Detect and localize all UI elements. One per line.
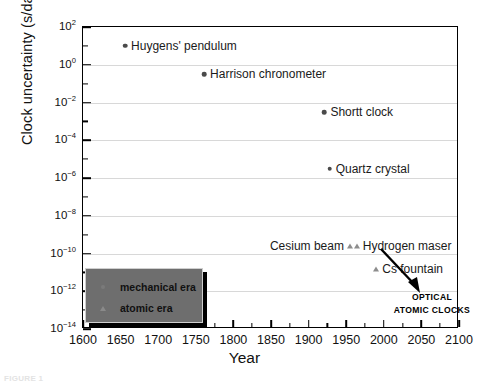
data-point-label: Huygens' pendulum — [131, 39, 237, 53]
y-major-tick — [83, 215, 91, 217]
x-tick-label: 1700 — [144, 333, 172, 347]
y-minor-tick — [83, 83, 88, 84]
x-tick-label: 1900 — [295, 333, 323, 347]
y-tick-label: 10−4 — [55, 135, 76, 147]
x-major-tick — [82, 320, 84, 327]
y-major-tick — [83, 253, 91, 255]
legend: mechanical era atomic era — [85, 268, 203, 323]
legend-circle-marker-icon — [86, 285, 120, 290]
x-tick-label: 1600 — [69, 333, 97, 347]
x-major-tick — [458, 320, 460, 327]
x-minor-tick — [214, 323, 215, 327]
gridline — [83, 216, 457, 217]
gridline — [83, 103, 457, 104]
x-minor-tick — [289, 323, 290, 327]
y-tick-label: 10−12 — [50, 286, 76, 298]
y-major-tick — [83, 102, 91, 104]
annotation-arrow-icon — [375, 245, 435, 297]
x-major-tick — [345, 320, 347, 327]
annotation-line-1: OPTICAL — [386, 291, 478, 304]
x-minor-tick — [252, 323, 253, 327]
x-tick-label: 1650 — [107, 333, 135, 347]
plot-area: 10−1410−1210−1010−810−610−410−2100102 16… — [82, 26, 458, 328]
data-point-marker — [322, 110, 327, 115]
data-point-marker — [327, 166, 332, 171]
data-point-label: Shortt clock — [330, 105, 393, 119]
x-major-tick — [383, 320, 385, 327]
y-minor-tick — [83, 196, 88, 197]
data-point-label: Cesium beam — [270, 239, 344, 253]
y-minor-tick — [83, 121, 88, 122]
x-tick-label: 1750 — [182, 333, 210, 347]
figure-caption: FIGURE 1 — [4, 374, 43, 383]
legend-entry-atomic-era: atomic era — [86, 297, 202, 319]
clock-uncertainty-figure: Clock uncertainty (s/day) 10−1410−1210−1… — [0, 0, 489, 385]
x-minor-tick — [364, 323, 365, 327]
x-tick-label: 2050 — [407, 333, 435, 347]
y-minor-tick — [83, 159, 88, 160]
data-point-marker — [347, 243, 353, 248]
x-major-tick — [308, 320, 310, 327]
y-major-tick — [83, 26, 91, 28]
y-major-tick — [83, 139, 91, 141]
gridline — [83, 178, 457, 179]
gridline — [83, 140, 457, 141]
x-minor-tick — [139, 323, 140, 327]
x-minor-tick — [402, 323, 403, 327]
y-minor-tick — [83, 234, 88, 235]
data-point-marker — [123, 44, 128, 49]
x-tick-label: 1800 — [219, 333, 247, 347]
x-axis-label: Year — [0, 349, 489, 367]
x-tick-label: 1850 — [257, 333, 285, 347]
x-major-tick — [233, 320, 235, 327]
x-major-tick — [421, 320, 423, 327]
x-minor-tick — [327, 323, 328, 327]
y-major-tick — [83, 177, 91, 179]
y-tick-label: 100 — [59, 59, 76, 71]
x-tick-label: 1950 — [332, 333, 360, 347]
data-point-marker — [202, 72, 207, 77]
y-tick-label: 10−6 — [55, 172, 76, 184]
data-point-label: Harrison chronometer — [210, 67, 326, 81]
y-minor-tick — [83, 45, 88, 46]
legend-label-atomic-era: atomic era — [120, 302, 173, 314]
legend-entry-mechanical-era: mechanical era — [86, 276, 202, 298]
y-tick-label: 10−2 — [55, 97, 76, 109]
y-tick-label: 10−8 — [55, 210, 76, 222]
legend-label-mechanical-era: mechanical era — [120, 281, 196, 293]
x-minor-tick — [176, 323, 177, 327]
x-major-tick — [270, 320, 272, 327]
y-major-tick — [83, 328, 91, 330]
data-point-label: Quartz crystal — [336, 162, 410, 176]
data-point-marker — [354, 243, 360, 248]
x-tick-label: 2100 — [445, 333, 473, 347]
annotation-line-2: ATOMIC CLOCKS — [386, 304, 478, 317]
x-minor-tick — [440, 323, 441, 327]
annotation-optical-atomic-clocks: OPTICAL ATOMIC CLOCKS — [386, 291, 478, 316]
gridline — [83, 65, 457, 66]
x-minor-tick — [101, 323, 102, 327]
y-axis-label: Clock uncertainty (s/day) — [19, 0, 35, 159]
x-tick-label: 2000 — [370, 333, 398, 347]
y-tick-label: 102 — [59, 21, 76, 33]
legend-triangle-marker-icon — [86, 306, 120, 311]
y-tick-label: 10−10 — [50, 248, 76, 260]
y-major-tick — [83, 64, 91, 66]
